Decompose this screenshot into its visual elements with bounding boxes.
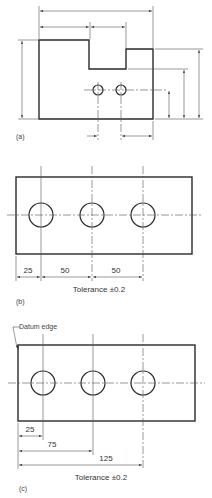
figure-b: 25 50 50 Tolerance ±0.2 (b) — [7, 166, 203, 306]
figure-a-label: (a) — [16, 133, 25, 141]
datum-edge-label: Datum edge — [19, 323, 57, 331]
dimension-value: 50 — [112, 266, 121, 275]
figure-c-label: (c) — [19, 485, 27, 493]
technical-drawing: (a) 25 50 50 Tolerance ±0.2 (b) Datum ed… — [0, 0, 212, 498]
dimension-value: 25 — [26, 425, 35, 434]
dimension-value: 75 — [48, 440, 57, 449]
figure-a: (a) — [16, 6, 203, 141]
dimension-value: 50 — [61, 266, 70, 275]
dimension-value: 125 — [99, 454, 113, 463]
figure-c: Datum edge 25 75 125 Tolerance ±0.2 (c) — [8, 323, 205, 493]
figure-b-label: (b) — [16, 298, 25, 306]
stepped-block-outline — [39, 40, 153, 119]
tolerance-note: Tolerance ±0.2 — [75, 473, 128, 482]
tolerance-note: Tolerance ±0.2 — [73, 285, 126, 294]
dimension-value: 25 — [24, 266, 33, 275]
